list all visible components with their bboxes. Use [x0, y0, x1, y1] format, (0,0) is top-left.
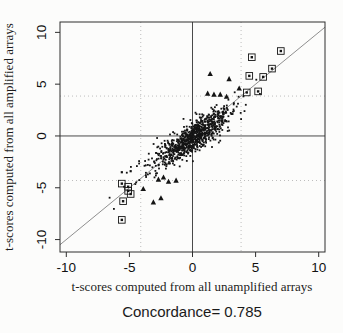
x-tick-label: -5: [123, 260, 135, 275]
y-tick-label: 5: [34, 80, 49, 88]
y-tick-label: 10: [34, 25, 49, 40]
x-axis-title: t-scores computed from all unamplified a…: [72, 279, 313, 294]
y-tick-label: -5: [34, 182, 49, 194]
scatter-plot-svg: -10-50510-10-50510 t-scores computed fro…: [0, 0, 343, 333]
scatter-figure: -10-50510-10-50510 t-scores computed fro…: [0, 0, 343, 333]
y-tick-label: 0: [34, 132, 49, 140]
x-tick-label: 0: [189, 260, 197, 275]
x-tick-label: -10: [57, 260, 77, 275]
y-axis-ticks: -10-50510: [34, 25, 60, 249]
x-axis-ticks: -10-50510: [57, 252, 327, 275]
x-tick-label: 5: [252, 260, 260, 275]
plot-layer: -10-50510-10-50510: [34, 22, 326, 275]
x-tick-label: 10: [311, 260, 326, 275]
concordance-caption: Concordance= 0.785: [122, 303, 262, 320]
y-axis-title: t-scores computed from all amplified arr…: [1, 23, 16, 251]
y-tick-label: -10: [34, 230, 49, 250]
